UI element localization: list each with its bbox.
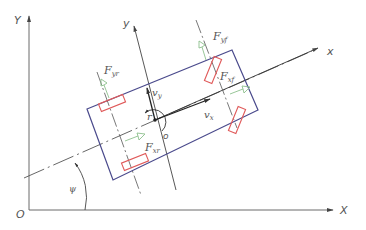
arrow-Fxr bbox=[125, 133, 145, 141]
global-origin-label: O bbox=[16, 208, 25, 221]
body-x-label: x bbox=[326, 45, 334, 58]
vx-vector bbox=[155, 99, 210, 120]
heading-angle: ψ bbox=[69, 163, 87, 210]
psi-label: ψ bbox=[69, 184, 77, 194]
vx-label: vx bbox=[204, 109, 214, 122]
global-y-label: Y bbox=[14, 14, 22, 27]
center-of-gravity: vx vy r o bbox=[145, 87, 214, 141]
psi-arc bbox=[75, 163, 87, 210]
arrow-Fxf bbox=[230, 86, 250, 94]
label-Fxr: Fxr bbox=[144, 141, 161, 155]
force-labels: Fyr Fyf Fxf Fxr bbox=[103, 30, 236, 155]
wheel-rear-left bbox=[98, 94, 125, 111]
yaw-rate-label: r bbox=[147, 111, 153, 122]
force-arrows bbox=[101, 41, 250, 141]
global-axes: Y X O bbox=[14, 14, 348, 221]
body-y-label: y bbox=[122, 17, 130, 30]
body-origin-label: o bbox=[163, 131, 169, 141]
label-Fyr: Fyr bbox=[103, 64, 120, 78]
label-Fyf: Fyf bbox=[212, 30, 229, 44]
vehicle-dynamics-diagram: Y X O x y vx bbox=[0, 0, 366, 230]
global-x-label: X bbox=[339, 204, 348, 217]
vy-label: vy bbox=[152, 87, 163, 100]
label-Fxf: Fxf bbox=[219, 70, 236, 84]
wheel-rear-right bbox=[121, 153, 148, 170]
